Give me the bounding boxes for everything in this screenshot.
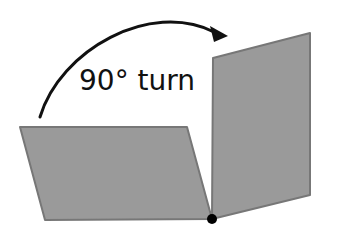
upright-panel	[212, 33, 310, 219]
flat-panel	[20, 127, 212, 220]
turn-label: 90° turn	[79, 64, 195, 97]
rotation-diagram: 90° turn	[0, 0, 337, 252]
pivot-point	[207, 214, 217, 224]
